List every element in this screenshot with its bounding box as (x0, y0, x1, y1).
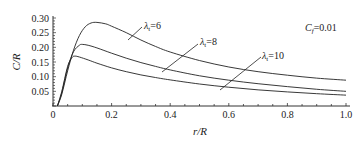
series-label: λt=8 (199, 36, 217, 49)
series-label: λt=6 (143, 20, 161, 33)
cf-annotation: Cf=0.01 (305, 22, 337, 35)
leader-line (220, 57, 261, 90)
y-tick-label: 0.30 (32, 13, 50, 24)
y-axis-title: C/R (10, 53, 22, 70)
x-tick-label: 0 (51, 109, 56, 120)
y-tick-label: 0.15 (32, 57, 50, 68)
x-tick-label: 0.2 (105, 109, 118, 120)
series-labels: λt=6λt=8λt=10 (128, 20, 284, 90)
x-tick-label: 0.4 (164, 109, 177, 120)
series-line-2 (57, 44, 346, 106)
x-tick-label: 0.8 (281, 109, 294, 120)
y-tick-label: 0.25 (32, 27, 50, 38)
x-tick-label: 1.0 (340, 109, 353, 120)
y-tick-label: 0.20 (32, 42, 50, 53)
leader-line (162, 44, 198, 72)
x-axis-title: r/R (193, 125, 207, 137)
series-line-3 (57, 56, 346, 106)
series-label: λt=10 (261, 50, 284, 63)
x-tick-label: 0.6 (223, 109, 236, 120)
y-tick-label: 0.10 (32, 71, 50, 82)
leader-line (128, 27, 142, 40)
cf-value: =0.01 (314, 22, 337, 33)
chart: 00.20.40.60.81.00.050.100.150.200.250.30… (0, 0, 361, 142)
y-tick-label: 0.05 (32, 86, 50, 97)
series-lines (57, 22, 346, 106)
